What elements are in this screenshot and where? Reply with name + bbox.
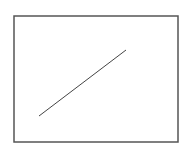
diagram-canvas [0,0,187,153]
diagonal-line-segment [39,50,126,116]
frame-rectangle [14,16,178,142]
